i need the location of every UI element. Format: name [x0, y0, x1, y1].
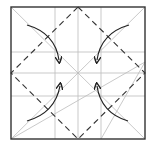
origami-diagram [0, 0, 153, 147]
